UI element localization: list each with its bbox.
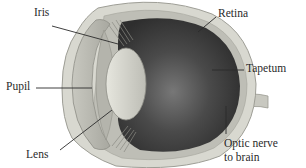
label-optic-nerve-line2: to brain: [224, 151, 259, 164]
label-iris: Iris: [34, 6, 49, 19]
eye-diagram: Iris Pupil Lens Retina Tapetum Optic ner…: [0, 0, 306, 168]
label-optic-nerve: Optic nerve: [224, 137, 278, 150]
lens-shape: [106, 48, 146, 120]
label-tapetum: Tapetum: [246, 62, 286, 75]
label-retina: Retina: [218, 7, 248, 20]
label-pupil: Pupil: [6, 80, 30, 93]
label-lens: Lens: [26, 148, 48, 161]
